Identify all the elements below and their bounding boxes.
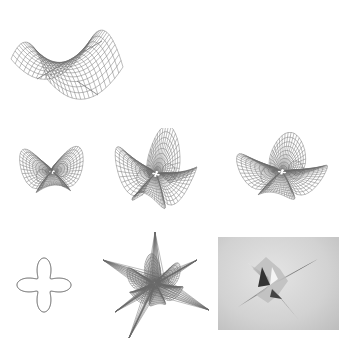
saddle-surface-panel [5,8,135,118]
four-lobe-surface-figure [110,128,202,220]
three-lobe-surface-figure [12,132,92,212]
four-lobe-surface-panel [110,128,202,220]
boundary-curve-panel [14,255,74,315]
boundary-curve-figure [14,255,74,315]
three-lobe-surface-panel [12,132,92,212]
shaded-surface-figure [218,237,339,330]
multi-petal-surface-panel [95,228,215,340]
saddle-surface-figure [5,8,135,118]
star-surface-panel [232,132,332,212]
star-surface-figure [232,132,332,212]
shaded-render-panel [218,237,339,330]
multi-petal-surface-figure [95,228,215,340]
